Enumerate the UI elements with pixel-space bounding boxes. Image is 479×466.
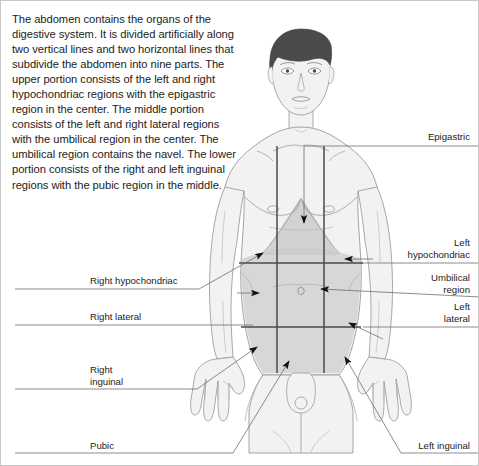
label-epigastric: Epigastric [379,131,470,143]
genital-outline [287,373,316,413]
pupil-right [286,69,289,72]
label-right-inguinal: Right inguinal [90,364,240,387]
abdomen-shaded-area [242,248,361,373]
label-left-hypochondriac: Left hypochondriac [379,237,470,260]
label-right-lateral: Right lateral [90,311,240,323]
label-left-lateral: Left lateral [379,301,470,324]
label-pubic: Pubic [90,440,240,452]
pupil-left [313,69,316,72]
illustration-page: The abdomen contains the organs of the d… [0,0,479,466]
description-paragraph: The abdomen contains the organs of the d… [12,12,240,193]
label-left-inguinal: Left inguinal [379,440,470,452]
hand-left [358,357,412,421]
label-umbilical-region: Umbilical region [379,272,470,295]
label-right-hypochondriac: Right hypochondriac [90,275,240,287]
